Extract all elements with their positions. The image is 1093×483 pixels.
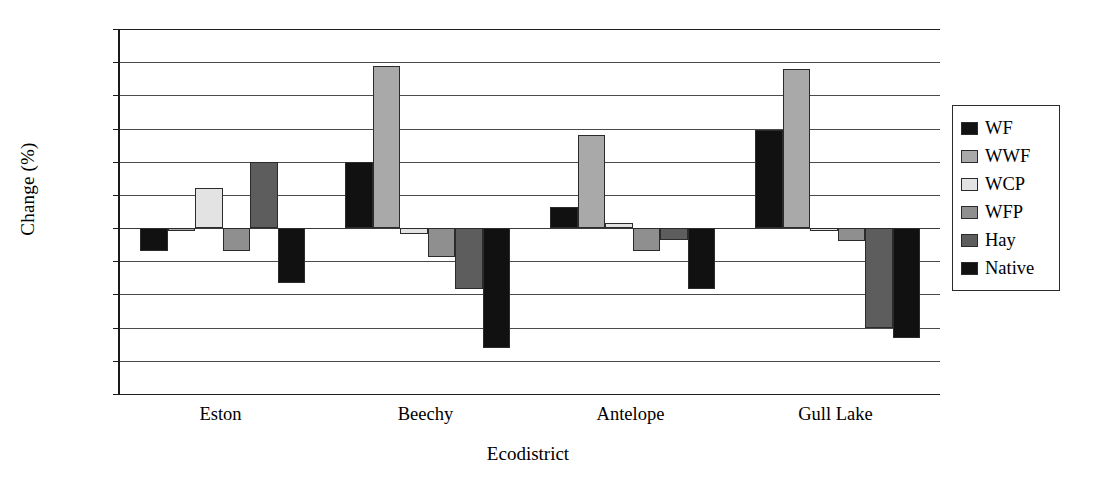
bar bbox=[783, 69, 811, 228]
bar bbox=[345, 162, 373, 228]
x-axis-category-label: Antelope bbox=[536, 404, 726, 425]
x-axis-category-label: Eston bbox=[126, 404, 316, 425]
legend-item[interactable]: WCP bbox=[961, 170, 1052, 198]
bar bbox=[893, 228, 921, 338]
bar bbox=[140, 228, 168, 251]
y-axis-title: Change (%) bbox=[17, 119, 39, 259]
y-tick-mark bbox=[113, 261, 120, 262]
y-tick-mark bbox=[113, 95, 120, 96]
bar bbox=[865, 228, 893, 328]
legend-item-label: WF bbox=[985, 119, 1013, 138]
legend-swatch-icon bbox=[961, 234, 978, 247]
bar bbox=[195, 188, 223, 228]
legend-item-label: WCP bbox=[985, 175, 1025, 194]
bar bbox=[223, 228, 251, 251]
legend-swatch-icon bbox=[961, 178, 978, 191]
legend-item-label: Native bbox=[985, 259, 1034, 278]
legend: WFWWFWCPWFPHayNative bbox=[952, 105, 1060, 291]
y-tick-mark bbox=[113, 62, 120, 63]
legend-swatch-icon bbox=[961, 122, 978, 135]
legend-item-label: WFP bbox=[985, 203, 1023, 222]
bar bbox=[810, 228, 838, 231]
bars-layer bbox=[120, 29, 940, 394]
bar bbox=[373, 66, 401, 228]
legend-item-label: Hay bbox=[985, 231, 1016, 250]
legend-swatch-icon bbox=[961, 206, 978, 219]
bar bbox=[483, 228, 511, 347]
bar bbox=[428, 228, 456, 257]
legend-item[interactable]: Native bbox=[961, 254, 1052, 282]
legend-item[interactable]: Hay bbox=[961, 226, 1052, 254]
y-tick-mark bbox=[113, 29, 120, 30]
bar bbox=[578, 135, 606, 228]
y-tick-mark bbox=[113, 195, 120, 196]
bar bbox=[605, 223, 633, 228]
x-axis-category-label: Beechy bbox=[331, 404, 521, 425]
y-tick-mark bbox=[113, 129, 120, 130]
legend-item-label: WWF bbox=[985, 147, 1030, 166]
bar bbox=[550, 207, 578, 229]
legend-swatch-icon bbox=[961, 150, 978, 163]
bar bbox=[278, 228, 306, 283]
y-tick-mark bbox=[113, 394, 120, 395]
y-tick-mark bbox=[113, 228, 120, 229]
bar bbox=[660, 228, 688, 240]
y-tick-mark bbox=[113, 294, 120, 295]
bar bbox=[400, 228, 428, 234]
bar bbox=[688, 228, 716, 289]
bar bbox=[633, 228, 661, 251]
y-tick-mark bbox=[113, 328, 120, 329]
y-tick-mark bbox=[113, 162, 120, 163]
legend-item[interactable]: WWF bbox=[961, 142, 1052, 170]
legend-item[interactable]: WFP bbox=[961, 198, 1052, 226]
bar bbox=[250, 162, 278, 228]
gridline bbox=[120, 394, 940, 395]
legend-swatch-icon bbox=[961, 262, 978, 275]
bar bbox=[838, 228, 866, 241]
plot-area: 121086420-2-4-6-8-10 bbox=[118, 29, 938, 394]
y-tick-mark bbox=[113, 361, 120, 362]
legend-item[interactable]: WF bbox=[961, 114, 1052, 142]
bar bbox=[455, 228, 483, 289]
x-axis-category-label: Gull Lake bbox=[741, 404, 931, 425]
x-axis-title: Ecodistrict bbox=[118, 443, 938, 465]
bar-chart: Change (%) 121086420-2-4-6-8-10 EstonBee… bbox=[0, 0, 1093, 483]
bar bbox=[755, 130, 783, 228]
bar bbox=[168, 228, 196, 231]
